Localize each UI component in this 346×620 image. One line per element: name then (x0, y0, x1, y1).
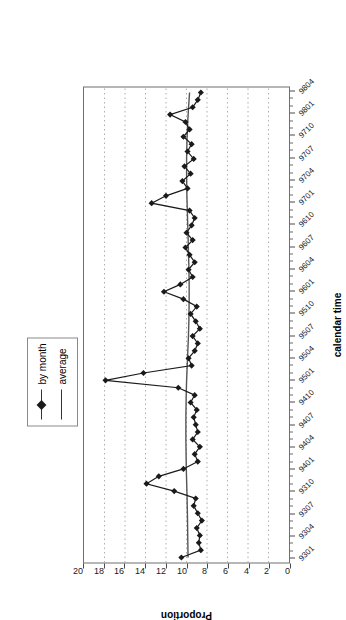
data-point-marker (195, 428, 201, 434)
x-axis-tick-minor (290, 520, 293, 521)
x-axis-tick-minor (290, 438, 293, 439)
x-axis-tick-mark (290, 357, 295, 358)
y-axis-tick-label: 16 (114, 566, 124, 576)
x-axis-tick-minor (290, 320, 293, 321)
chart-legend: by month average (27, 337, 78, 426)
x-axis-tick-minor (290, 275, 293, 276)
x-axis-tick-mark (290, 557, 295, 558)
y-axis-title: Proportion (83, 606, 290, 620)
x-axis-tick-label: 9604 (297, 254, 316, 273)
data-point-marker (197, 532, 203, 538)
x-axis-tick-mark (290, 112, 295, 113)
x-axis-tick-mark (290, 424, 295, 425)
x-axis-tick-mark (290, 446, 295, 447)
x-axis-tick-minor (290, 409, 293, 410)
data-point-marker (198, 89, 204, 95)
x-axis-tick-label: 9401 (297, 454, 316, 473)
legend-label-by-month: by month (37, 343, 48, 384)
data-point-marker (193, 421, 199, 427)
x-axis-tick-label: 9510 (297, 299, 316, 318)
x-axis-tick-minor (290, 97, 293, 98)
data-point-marker (189, 362, 195, 368)
chart-figure: by month average 02468101214161820 93019… (13, 0, 307, 619)
x-axis-tick-mark (290, 312, 295, 313)
x-axis-tick-mark (290, 290, 295, 291)
legend-entry-average: average (52, 344, 72, 419)
y-axis-tick-label: 20 (73, 566, 83, 576)
series-canvas (84, 87, 289, 562)
x-axis-tick-label: 9607 (297, 232, 316, 251)
x-axis-tick-label: 9610 (297, 210, 316, 229)
data-point-marker (196, 539, 202, 545)
x-axis-tick-minor (290, 253, 293, 254)
data-point-marker (178, 554, 184, 560)
x-axis-tick-mark (290, 535, 295, 536)
y-axis-tick-mark (207, 563, 208, 568)
x-axis-tick-mark (290, 468, 295, 469)
x-axis-tick-minor (290, 416, 293, 417)
chart-figure-rotator: by month average 02468101214161820 93019… (13, 0, 307, 619)
x-axis-tick-minor (290, 498, 293, 499)
x-axis-tick-mark (290, 201, 295, 202)
y-axis-tick-label: 10 (176, 566, 186, 576)
x-axis-tick-mark (290, 513, 295, 514)
x-axis-tick-minor (290, 261, 293, 262)
y-axis-tick-mark (145, 563, 146, 568)
x-axis-tick-label: 9310 (297, 477, 316, 496)
x-axis-tick-minor (290, 238, 293, 239)
x-axis-tick-minor (290, 194, 293, 195)
y-axis-tick-mark (290, 563, 291, 568)
x-axis-tick-minor (290, 298, 293, 299)
x-axis-tick-minor (290, 349, 293, 350)
x-axis-tick-label: 9307 (297, 499, 316, 518)
x-axis-tick-mark (290, 490, 295, 491)
y-axis-tick-mark (83, 563, 84, 568)
legend-key-line-marker (35, 389, 49, 419)
y-axis-tick-label: 4 (244, 566, 249, 576)
data-point-marker (198, 547, 204, 553)
y-axis-tick-label: 6 (223, 566, 228, 576)
x-axis-tick-minor (290, 364, 293, 365)
x-axis-tick-label: 9407 (297, 410, 316, 429)
x-axis-tick-label: 9710 (297, 121, 316, 140)
y-axis-tick-label: 2 (264, 566, 269, 576)
x-axis-title: calendar time (332, 86, 343, 563)
x-axis-tick-minor (290, 475, 293, 476)
x-axis-tick-minor (290, 172, 293, 173)
x-axis-tick-minor (290, 327, 293, 328)
data-point-marker (192, 392, 198, 398)
x-axis-tick-mark (290, 179, 295, 180)
legend-key-line (55, 389, 69, 419)
x-axis-tick-minor (290, 505, 293, 506)
x-axis-tick-minor (290, 231, 293, 232)
data-point-marker (191, 502, 197, 508)
x-axis-tick-mark (290, 134, 295, 135)
legend-entry-by-month: by month (32, 344, 52, 419)
y-axis-tick-mark (228, 563, 229, 568)
x-axis-tick-minor (290, 120, 293, 121)
data-point-marker (189, 222, 195, 228)
x-axis-tick-minor (290, 186, 293, 187)
x-axis-tick-minor (290, 305, 293, 306)
x-axis-tick-minor (290, 127, 293, 128)
x-axis-tick-minor (290, 431, 293, 432)
x-axis-tick-label: 9501 (297, 366, 316, 385)
x-axis-tick-label: 9504 (297, 343, 316, 362)
x-axis-tick-minor (290, 164, 293, 165)
x-axis-tick-minor (290, 394, 293, 395)
x-axis-tick-mark (290, 335, 295, 336)
x-axis-tick-minor (290, 453, 293, 454)
x-axis-tick-minor (290, 142, 293, 143)
x-axis-tick-minor (290, 342, 293, 343)
data-point-marker (143, 480, 149, 486)
data-point-marker (171, 487, 177, 493)
x-axis-tick-mark (290, 157, 295, 158)
x-axis-tick-label: 9304 (297, 521, 316, 540)
y-axis-tick-label: 14 (135, 566, 145, 576)
x-axis-tick-minor (290, 461, 293, 462)
y-axis-tick-label: 8 (202, 566, 207, 576)
y-axis-tick-label: 18 (94, 566, 104, 576)
data-point-marker (193, 495, 199, 501)
data-point-marker (149, 200, 155, 206)
series-markers-by-month (102, 89, 204, 560)
